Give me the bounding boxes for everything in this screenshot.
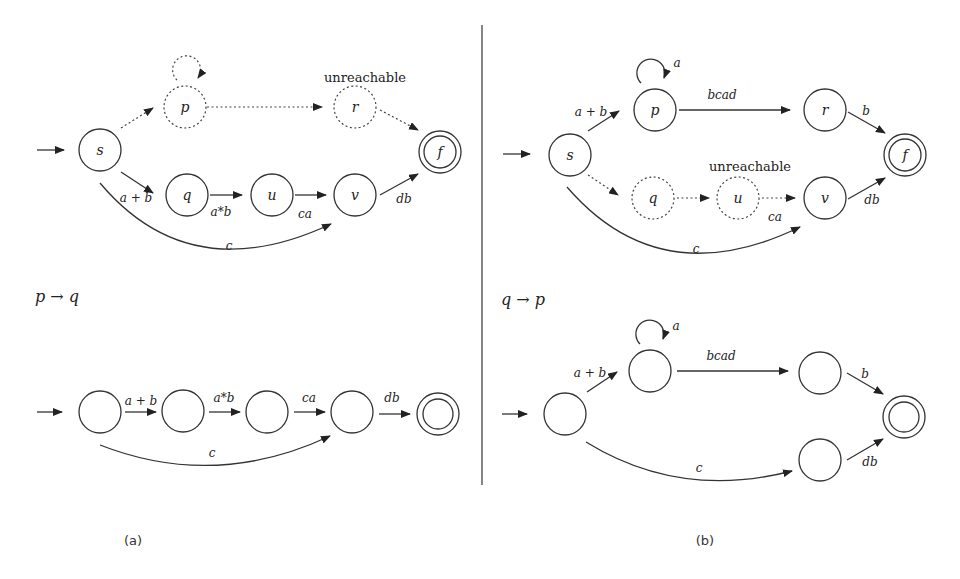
- edge-s-q: [121, 172, 153, 193]
- state-accept-inner: [889, 402, 919, 432]
- self-loop-p: [173, 56, 201, 80]
- edge-label-b: b: [861, 367, 869, 381]
- edge-label-a-plus-b: a + b: [574, 366, 607, 380]
- edge-label-c: c: [696, 461, 703, 475]
- rule-label-p-to-q: p → q: [35, 287, 79, 306]
- state-1: [544, 393, 586, 435]
- edge-label-db: db: [862, 455, 877, 469]
- panel-a-top-automaton: s p r q u v f unreachable a + b a*b ca d…: [37, 56, 461, 253]
- edge-label-db: db: [384, 391, 399, 405]
- state-accept-inner: [423, 399, 453, 429]
- edge-label-a: a: [672, 319, 679, 333]
- edge-label-bcad: bcad: [707, 88, 737, 102]
- state-3: [246, 391, 288, 433]
- state-label-v: v: [821, 190, 829, 206]
- self-loop-p: [637, 59, 665, 83]
- edge-s-q: [588, 175, 618, 195]
- caption-a: (a): [124, 533, 142, 548]
- edge-label-a-plus-b: a + b: [125, 394, 158, 408]
- edge-label-a-plus-b: a + b: [575, 105, 608, 119]
- edge-label-c: c: [209, 446, 216, 460]
- panel-a-bottom-automaton: a + b a*b ca db c: [37, 390, 459, 465]
- state-4: [799, 439, 841, 481]
- rule-label-q-to-p: q → p: [501, 290, 545, 309]
- state-label-q: q: [649, 190, 658, 206]
- edge-label-a-star-b: a*b: [214, 391, 235, 405]
- state-2: [162, 390, 204, 432]
- panel-b-bottom-automaton: a a + b bcad b db c: [502, 319, 925, 481]
- state-label-u: u: [733, 190, 742, 206]
- self-loop: [636, 320, 664, 344]
- state-4: [331, 391, 373, 433]
- edge-label-ca: ca: [298, 207, 312, 221]
- edge-label-ca: ca: [768, 210, 782, 224]
- edge-label-b: b: [862, 104, 870, 118]
- caption-b: (b): [696, 533, 714, 548]
- edge-label-db: db: [396, 192, 411, 206]
- state-label-s: s: [566, 147, 573, 163]
- state-2: [629, 350, 671, 392]
- unreachable-annotation: unreachable: [324, 70, 406, 85]
- state-label-q: q: [183, 187, 192, 203]
- edge-label-ca: ca: [302, 391, 316, 405]
- edge-label-a: a: [673, 56, 680, 70]
- edge-r-f: [380, 110, 418, 130]
- edge-label-c: c: [226, 239, 233, 253]
- edge-label-c: c: [693, 242, 700, 256]
- state-3: [799, 352, 841, 394]
- state-label-u: u: [267, 187, 276, 203]
- edge-label-a-plus-b: a + b: [120, 191, 153, 205]
- state-label-v: v: [351, 187, 359, 203]
- edge-s-p: [121, 108, 153, 128]
- state-label-s: s: [96, 142, 103, 158]
- state-1: [79, 391, 121, 433]
- automata-figure: s p r q u v f unreachable a + b a*b ca d…: [0, 0, 960, 579]
- edge-1-4-c: [586, 442, 792, 481]
- edge-label-db: db: [864, 193, 879, 207]
- edge-label-bcad: bcad: [706, 349, 736, 363]
- unreachable-annotation: unreachable: [709, 159, 791, 174]
- state-label-p: p: [651, 102, 660, 118]
- edge-s-v-c: [567, 187, 800, 253]
- panel-b-top-automaton: s p r q u v f a a + b bcad b unreachable…: [503, 56, 926, 256]
- edge-label-a-star-b: a*b: [211, 205, 232, 219]
- state-label-p: p: [181, 99, 190, 115]
